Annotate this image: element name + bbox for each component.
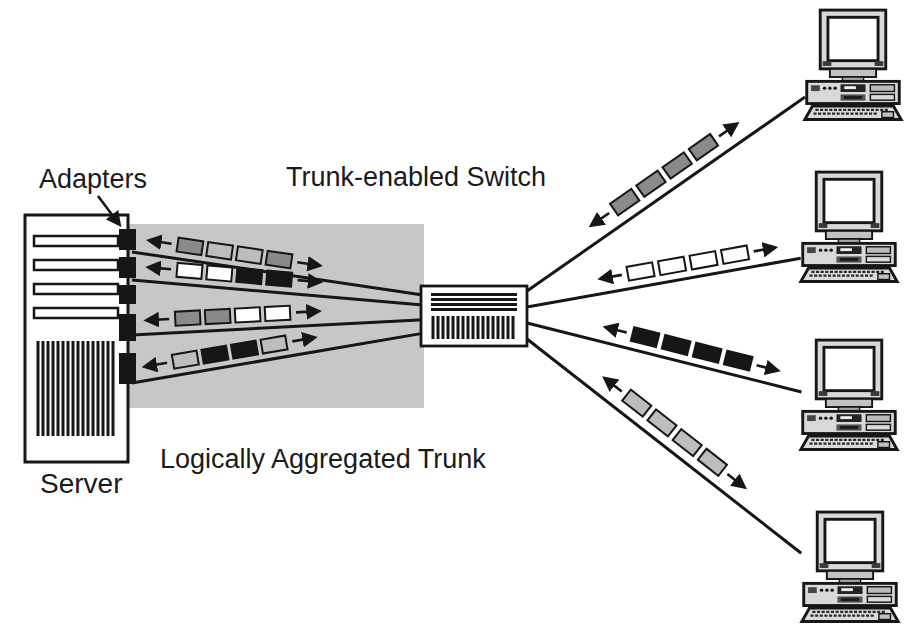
right-arrow-icon: [719, 124, 736, 136]
network-diagram: Adapters Trunk-enabled Switch Logically …: [0, 0, 909, 637]
left-arrow-icon: [592, 213, 609, 225]
packet-white: [235, 307, 261, 322]
packet-light-gray: [236, 246, 263, 264]
packet-black: [201, 346, 228, 364]
client-computer-3: [801, 340, 897, 449]
server-slot-4: [34, 308, 118, 318]
client-link-3: [527, 302, 807, 392]
packet-dark-gray: [205, 309, 231, 324]
packet-white: [176, 263, 202, 279]
client-link-4-train: [601, 373, 748, 492]
right-arrow-icon: [296, 311, 318, 312]
packet-dark-gray: [663, 152, 692, 178]
packet-black: [631, 327, 660, 347]
client-computer-2: [801, 172, 897, 281]
client-link-4-line: [527, 339, 801, 553]
packet-black: [693, 343, 722, 363]
packet-light-gray: [622, 390, 651, 417]
adapter-port-4: [119, 314, 136, 341]
switch-node: [421, 286, 527, 346]
adapters-label: Adapters: [39, 164, 147, 194]
packet-white: [721, 246, 749, 264]
packet-white: [265, 306, 291, 321]
client-computer-4: [802, 512, 898, 621]
server-slot-3: [34, 284, 118, 294]
adapter-port-1: [119, 229, 136, 250]
packet-light-gray: [172, 351, 199, 369]
packet-black: [236, 268, 262, 284]
packet-white: [206, 265, 232, 281]
adapter-port-5: [119, 353, 136, 384]
switch-label: Trunk-enabled Switch: [286, 162, 546, 192]
packet-dark-gray: [636, 171, 665, 197]
right-arrow-icon: [757, 365, 777, 370]
packet-dark-gray: [266, 251, 293, 269]
packet-white: [658, 257, 686, 275]
client-link-4: [527, 320, 816, 553]
adapter-port-2: [119, 257, 136, 278]
aggregated-trunk-label: Logically Aggregated Trunk: [160, 444, 486, 474]
right-arrow-icon: [754, 248, 775, 252]
client-link-3-line: [527, 323, 801, 392]
packet-light-gray: [673, 429, 702, 456]
packet-black: [231, 341, 258, 359]
packet-dark-gray: [689, 134, 718, 160]
left-arrow-icon: [147, 319, 169, 320]
server-label: Server: [40, 468, 122, 499]
packet-black: [266, 271, 292, 287]
packet-dark-gray: [175, 310, 201, 325]
server-node: [25, 215, 136, 462]
packet-dark-gray: [177, 238, 204, 256]
adapter-port-3: [119, 285, 136, 304]
client-link-2: [523, 237, 801, 307]
left-arrow-icon: [601, 275, 622, 279]
packet-black: [662, 335, 691, 355]
packet-light-gray: [206, 242, 233, 260]
packet-light-gray: [647, 409, 676, 436]
packet-dark-gray: [610, 189, 639, 215]
left-arrow-icon: [605, 379, 622, 392]
packet-white: [690, 251, 718, 269]
packet-light-gray: [261, 336, 288, 354]
server-slot-2: [34, 260, 118, 270]
packet-light-gray: [698, 449, 727, 476]
client-computer-1: [805, 10, 901, 119]
client-link-1: [513, 77, 805, 291]
server-slot-1: [34, 236, 118, 246]
right-arrow-icon: [727, 474, 744, 487]
left-arrow-icon: [606, 327, 626, 332]
packet-white: [627, 262, 655, 280]
client-link-1-train: [588, 119, 740, 231]
packet-black: [724, 351, 753, 371]
